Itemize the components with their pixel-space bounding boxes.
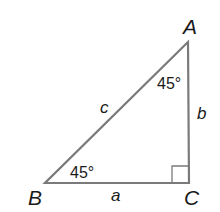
- triangle-diagram: A B C a b c 45° 45°: [0, 0, 220, 212]
- vertex-label-c: C: [184, 186, 200, 209]
- side-label-b: b: [197, 104, 206, 123]
- side-label-c: c: [100, 98, 109, 117]
- vertex-label-b: B: [28, 186, 42, 209]
- angle-label-a: 45°: [157, 75, 181, 92]
- side-label-a: a: [111, 186, 120, 205]
- angle-label-b: 45°: [70, 164, 94, 181]
- triangle-abc: [45, 42, 189, 183]
- right-angle-marker: [172, 166, 189, 183]
- vertex-label-a: A: [181, 15, 197, 38]
